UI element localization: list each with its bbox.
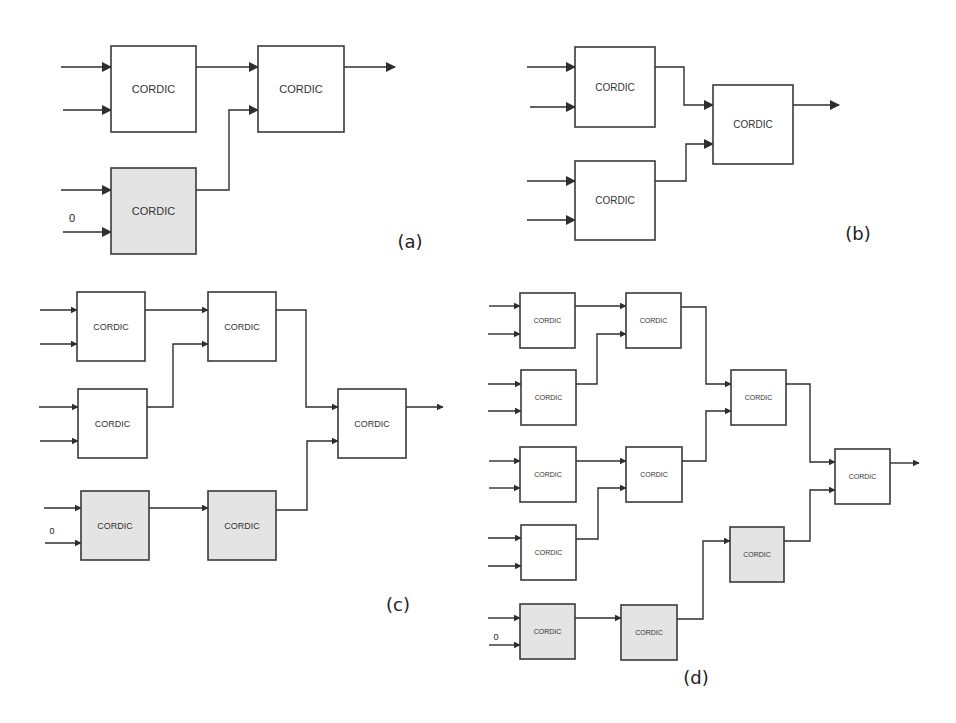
signal-arrow [196,110,258,190]
cordic-block: CORDIC [713,85,793,164]
cordic-block: CORDIC [77,292,145,361]
cordic-block: CORDIC [730,527,784,582]
cordic-block-label: CORDIC [635,629,663,636]
cordic-block-label: CORDIC [534,471,562,478]
cordic-block-label: CORDIC [535,394,563,401]
cordic-block: CORDIC [111,168,196,254]
cordic-block-label: CORDIC [132,83,175,95]
cordic-block: CORDIC [626,293,681,348]
cordic-block-label: CORDIC [595,195,634,206]
cordic-block-label: CORDIC [224,322,260,332]
cordic-block: CORDIC [111,46,196,132]
cordic-block: CORDIC [520,604,575,659]
signal-arrow [784,490,835,541]
panel-caption: (d) [683,667,708,688]
cordic-block: CORDIC [208,292,276,361]
panel-a-diagram: CORDICCORDICCORDIC0(a) [61,46,423,254]
cordic-block-label: CORDIC [132,205,175,217]
cordic-block-label: CORDIC [534,317,562,324]
cordic-block-label: CORDIC [279,83,322,95]
signal-arrow [681,307,731,384]
cordic-block-label: CORDIC [849,473,877,480]
cordic-figure: CORDICCORDICCORDIC0(a) CORDICCORDICCORDI… [0,0,956,723]
signal-arrow [655,144,713,181]
panel-c-diagram: CORDICCORDICCORDICCORDICCORDICCORDIC0(c) [39,292,443,615]
cordic-block: CORDIC [521,525,576,580]
cordic-block: CORDIC [575,161,655,240]
panel-caption: (b) [845,223,870,244]
signal-arrow [677,541,730,619]
signal-arrow [576,334,626,384]
panel-caption: (c) [386,594,410,615]
cordic-block: CORDIC [520,293,575,348]
cordic-block-label: CORDIC [595,82,634,93]
signal-arrow [655,67,713,105]
cordic-block: CORDIC [521,370,576,425]
cordic-block: CORDIC [520,447,576,502]
cordic-block: CORDIC [575,47,655,127]
signal-arrow [147,344,208,407]
cordic-block: CORDIC [258,46,344,132]
cordic-block: CORDIC [626,447,682,502]
signal-arrow [682,411,731,461]
cordic-block-label: CORDIC [745,394,773,401]
cordic-block-label: CORDIC [534,628,562,635]
signal-arrow [276,441,338,510]
signal-arrow [786,384,835,462]
signal-arrow [576,488,626,539]
cordic-block-label: CORDIC [733,119,772,130]
zero-input-label: 0 [49,526,54,536]
panel-caption: (a) [397,231,422,252]
panel-d-diagram: CORDICCORDICCORDICCORDICCORDICCORDICCORD… [488,293,919,688]
cordic-block: CORDIC [835,449,890,504]
cordic-block: CORDIC [731,370,786,425]
cordic-block-label: CORDIC [535,549,563,556]
cordic-block-label: CORDIC [743,551,771,558]
cordic-block-label: CORDIC [354,419,390,429]
zero-input-label: 0 [69,212,75,224]
cordic-block-label: CORDIC [640,471,668,478]
cordic-block-label: CORDIC [95,419,131,429]
panel-b-diagram: CORDICCORDICCORDIC(b) [527,47,871,244]
cordic-block-label: CORDIC [97,521,133,531]
zero-input-label: 0 [493,632,498,642]
cordic-block: CORDIC [81,491,149,560]
cordic-block: CORDIC [208,491,276,560]
cordic-block: CORDIC [621,605,677,660]
cordic-block-label: CORDIC [224,521,260,531]
cordic-block: CORDIC [338,389,406,458]
cordic-block-label: CORDIC [640,317,668,324]
signal-arrow [276,310,338,407]
cordic-block-label: CORDIC [93,322,129,332]
cordic-block: CORDIC [78,389,147,458]
